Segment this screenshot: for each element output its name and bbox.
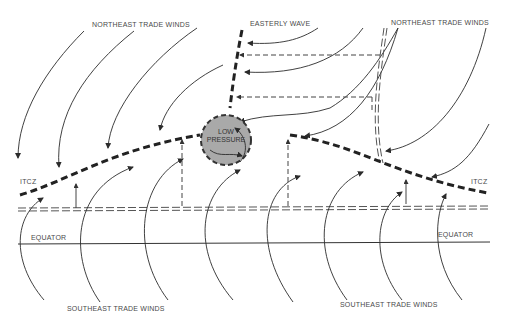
low-pressure-label-line2: PRESSURE — [207, 136, 246, 143]
itcz-label-right: ITCZ — [471, 178, 488, 185]
northeast-trade-winds-label-left: NORTHEAST TRADE WINDS — [92, 21, 190, 28]
southeast-trade-winds-arrows — [20, 159, 462, 302]
easterly-wave-streamlines — [245, 28, 363, 72]
low-pressure-system: LOW PRESSURE — [201, 115, 251, 165]
low-pressure-label-line1: LOW — [218, 128, 234, 135]
northeast-trade-winds-label-right: NORTHEAST TRADE WINDS — [391, 19, 489, 26]
itcz-line — [20, 135, 488, 195]
equator-label-right: EQUATOR — [438, 231, 473, 239]
trough-double-line — [375, 28, 387, 163]
double-dashed-line — [18, 206, 488, 211]
easterly-wave-label: EASTERLY WAVE — [250, 20, 310, 27]
southeast-trade-winds-label-left: SOUTHEAST TRADE WINDS — [67, 305, 165, 312]
southeast-trade-winds-label-right: SOUTHEAST TRADE WINDS — [340, 301, 438, 308]
northeast-trade-winds-left-arrows — [18, 28, 223, 167]
equator-line — [18, 242, 490, 244]
easterly-wave-line — [230, 30, 242, 108]
itcz-label-left: ITCZ — [20, 178, 37, 185]
easterly-wave-diagram: LOW PRESSURE NORTHEAST TRADE WINDS EASTE… — [0, 0, 507, 326]
horizontal-dashed-arrows — [237, 55, 380, 112]
equator-label-left: EQUATOR — [31, 234, 66, 242]
